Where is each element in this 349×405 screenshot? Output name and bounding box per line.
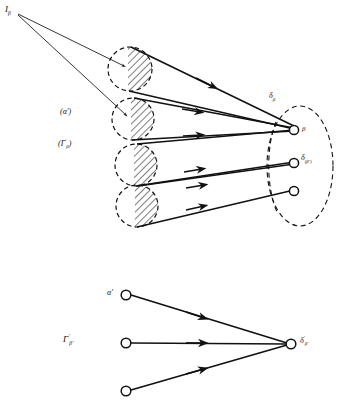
arrowhead-4 — [184, 169, 202, 172]
arrowhead-5 — [186, 185, 204, 188]
source-rays — [18, 14, 126, 115]
cone-2-hatch — [131, 96, 179, 144]
cone-1-hatch — [128, 45, 178, 95]
lower-source-node-alpha-prime[interactable] — [121, 290, 131, 300]
target-node-beta[interactable] — [289, 125, 298, 134]
arrowhead-6 — [186, 206, 204, 210]
lower-arrowhead-3 — [186, 369, 204, 374]
upper-edge-arrowheads — [182, 78, 214, 210]
lower-edge-arrowheads — [186, 312, 204, 374]
cone-2 — [112, 96, 294, 144]
diagram-svg — [0, 0, 349, 405]
target-node-2[interactable] — [289, 158, 298, 167]
arrowhead-3 — [183, 135, 201, 136]
cone-4-hatch — [135, 184, 183, 232]
label-source-I-beta: Iβ — [5, 5, 11, 16]
lower-arrowhead-1 — [186, 312, 204, 318]
label-lower-gamma: Γ′β′ — [63, 334, 73, 346]
lower-edge-1 — [131, 295, 287, 343]
lower-edge-2 — [131, 343, 287, 344]
lower-source-node-3[interactable] — [121, 386, 131, 396]
label-alpha-prime-upper-text: (α′) — [60, 107, 71, 116]
figure-canvas: Iβ (α′) (Γ′β) δβ δ(β′) β α′ Γ′β′ δ′β′ — [0, 0, 349, 405]
label-delta-beta: δβ — [269, 92, 275, 103]
label-cone-group-gamma-beta: (Γ′β) — [58, 139, 71, 150]
label-lower-gamma-prime: ′ — [68, 333, 69, 339]
lower-source-node-2[interactable] — [121, 338, 131, 348]
lower-edge-3 — [131, 345, 287, 390]
label-delta-beta-prime: δ(β′) — [301, 154, 312, 165]
label-lower-gamma-sub: β′ — [69, 340, 73, 346]
source-ray-2 — [18, 15, 126, 115]
label-target-node-beta-text: β — [302, 125, 306, 133]
label-target-node-beta: β — [302, 126, 306, 133]
label-delta-beta-prime-sub: (β′) — [305, 159, 312, 164]
label-delta-beta-sub: β — [273, 97, 275, 102]
target-node-3[interactable] — [289, 186, 298, 195]
label-cone-group-close: ) — [69, 139, 72, 148]
label-alpha-prime-upper: (α′) — [60, 108, 71, 116]
label-source-I-beta-sub: β — [8, 10, 11, 16]
cone-2-outline — [132, 98, 294, 140]
label-lower-delta-sub: β′ — [305, 341, 309, 346]
label-alpha-prime-lower: α′ — [107, 289, 113, 297]
label-alpha-prime-lower-text: α′ — [107, 288, 113, 297]
lower-target-node-delta-prime[interactable] — [286, 339, 296, 349]
arrowhead-1 — [196, 78, 214, 87]
label-cone-group-prime: ′ — [65, 138, 66, 143]
source-ray-1 — [18, 14, 124, 66]
label-lower-delta: δ′β′ — [300, 336, 308, 347]
label-lower-delta-prime: ′ — [304, 335, 305, 340]
lower-edges — [131, 295, 287, 390]
